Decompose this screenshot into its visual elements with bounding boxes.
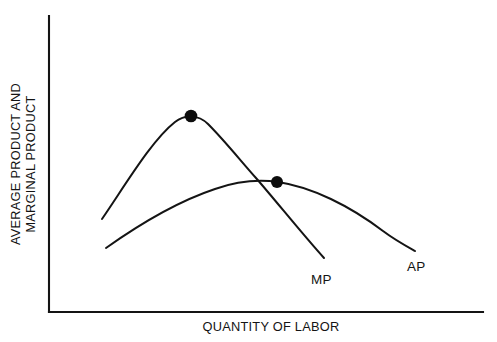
ap-curve-label: AP bbox=[407, 259, 425, 274]
marginal-average-product-chart: MP AP QUANTITY OF LABOR AVERAGE PRODUCT … bbox=[0, 0, 497, 342]
mp-curve-label: MP bbox=[311, 272, 332, 287]
mp-ap-intersection-point-marker bbox=[271, 176, 283, 188]
y-axis-title-line-1: AVERAGE PRODUCT AND bbox=[8, 83, 23, 245]
chart-canvas: MP AP QUANTITY OF LABOR AVERAGE PRODUCT … bbox=[0, 0, 497, 342]
ap-curve bbox=[106, 181, 415, 251]
y-axis-title-line-2: MARGINAL PRODUCT bbox=[23, 95, 38, 232]
y-axis-title: AVERAGE PRODUCT AND MARGINAL PRODUCT bbox=[8, 83, 38, 245]
mp-curve bbox=[102, 117, 324, 258]
x-axis-title: QUANTITY OF LABOR bbox=[203, 319, 340, 334]
mp-maximum-point-marker bbox=[185, 110, 198, 123]
